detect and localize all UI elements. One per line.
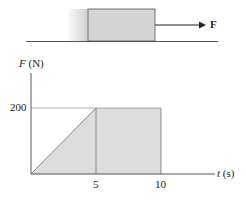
y-var: F: [19, 57, 26, 69]
y-tick-200: 200: [10, 102, 27, 113]
block: [88, 9, 155, 41]
x-unit: (s): [223, 167, 235, 179]
diagram-svg: [0, 0, 247, 200]
y-unit: (N): [28, 57, 43, 69]
x-var: t: [217, 167, 220, 179]
block-shadow: [66, 9, 88, 41]
x-tick-10: 10: [155, 179, 166, 190]
y-axis-label: F (N): [19, 58, 44, 69]
force-label: F: [210, 19, 217, 30]
arrowhead-icon: [199, 22, 206, 29]
x-tick-5: 5: [93, 179, 99, 190]
x-axis-label: t (s): [217, 168, 234, 179]
